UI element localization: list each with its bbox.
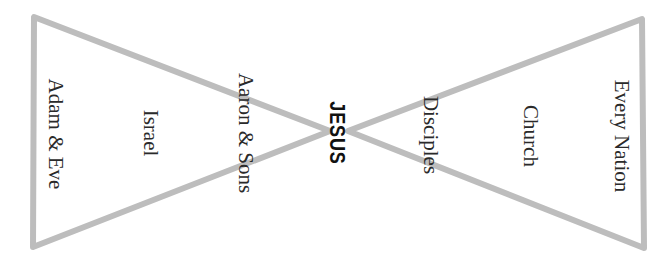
label-israel: Israel [140,110,161,157]
label-church: Church [520,105,541,167]
right-triangle [348,19,644,248]
label-adam-eve: Adam & Eve [45,79,66,190]
label-every-nation: Every Nation [611,80,632,193]
label-jesus: JESUS [326,101,348,164]
label-aaron-sons: Aaron & Sons [235,73,256,193]
left-triangle [33,17,330,247]
label-disciples: Disciples [420,96,441,174]
hourglass-diagram: Adam & Eve Israel Aaron & Sons JESUS Dis… [0,0,668,271]
